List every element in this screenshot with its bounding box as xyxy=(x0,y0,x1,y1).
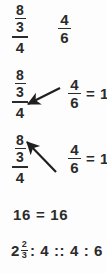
inner-fraction-row1: 8 3 xyxy=(15,3,26,34)
main-fraction-bar-row3 xyxy=(12,166,28,167)
right-numerator-row2: 4 xyxy=(69,77,79,92)
inner-numerator-row2: 8 xyxy=(16,68,24,82)
mixed-number: 2 2 3 xyxy=(11,240,28,260)
right-numerator-row3: 4 xyxy=(69,142,79,157)
complex-fraction-left-row1: 8 3 4 xyxy=(12,3,28,55)
inner-fraction-row3: 8 3 xyxy=(15,133,26,164)
right-denominator-row3: 6 xyxy=(69,160,79,175)
result-row3: = 16 xyxy=(86,150,107,167)
right-denominator-row2: 6 xyxy=(69,95,79,110)
inner-numerator-row3: 8 xyxy=(16,133,24,147)
inner-denominator-row2: 3 xyxy=(16,85,24,99)
right-denominator-row1: 6 xyxy=(59,30,69,45)
outer-denominator-row2: 4 xyxy=(16,105,24,120)
row-plain-terms: 8 3 4 4 6 xyxy=(12,3,71,55)
mixed-denominator: 3 xyxy=(22,251,28,260)
row-cross-multiply-up: 8 3 4 4 6 = 16 xyxy=(12,133,107,185)
outer-denominator-row3: 4 xyxy=(16,170,24,185)
result-row2: = 16 xyxy=(86,85,107,102)
complex-fraction-left-row2: 8 3 4 xyxy=(12,68,28,120)
mixed-whole-part: 2 xyxy=(11,242,20,259)
right-numerator-row1: 4 xyxy=(59,12,69,27)
mixed-fraction-part: 2 3 xyxy=(21,240,28,260)
proportion-line: 2 2 3 : 4 :: 4 : 6 xyxy=(11,240,103,260)
mixed-numerator: 2 xyxy=(22,240,28,249)
fraction-right-row1: 4 6 xyxy=(58,12,71,45)
main-fraction-bar-row1 xyxy=(12,36,28,37)
row-cross-multiply-down: 8 3 4 4 6 = 16 xyxy=(12,68,107,120)
inner-fraction-row2: 8 3 xyxy=(15,68,26,99)
complex-fraction-left-row3: 8 3 4 xyxy=(12,133,28,185)
equality-line: 16 = 16 xyxy=(13,206,68,223)
fraction-right-row2: 4 6 xyxy=(68,77,81,110)
outer-denominator-row1: 4 xyxy=(16,40,24,55)
inner-numerator-row1: 8 xyxy=(16,3,24,17)
equality-left-value: 16 xyxy=(13,206,31,223)
equality-operator: = xyxy=(36,206,45,223)
inner-denominator-row1: 3 xyxy=(16,20,24,34)
fraction-right-row3: 4 6 xyxy=(68,142,81,175)
worked-example-figure: 8 3 4 4 6 8 3 4 4 xyxy=(0,0,107,273)
main-fraction-bar-row2 xyxy=(12,101,28,102)
proportion-ratio-tail: : 4 :: 4 : 6 xyxy=(30,242,103,259)
equality-right-value: 16 xyxy=(50,206,68,223)
inner-denominator-row3: 3 xyxy=(16,150,24,164)
